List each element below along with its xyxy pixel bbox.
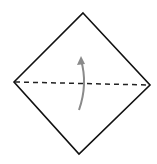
diagram-canvas xyxy=(0,0,157,164)
origami-diagram: Valley fold in half (bottom corner up to… xyxy=(0,0,157,164)
